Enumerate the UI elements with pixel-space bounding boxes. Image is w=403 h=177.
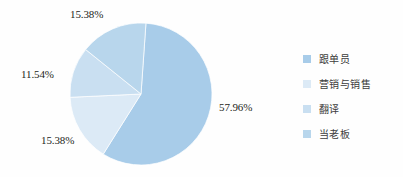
legend-item-label: 当老板 <box>319 126 350 141</box>
data-label-slice-3: 15.38% <box>70 8 103 20</box>
legend-item-label: 跟单员 <box>319 51 350 66</box>
legend-item[interactable]: 营销与销售 <box>303 71 403 96</box>
legend-swatch-icon <box>303 105 311 113</box>
legend-swatch-icon <box>303 55 311 63</box>
legend-item-label: 营销与销售 <box>319 76 371 91</box>
pie-chart: 57.96% 15.38% 11.54% 15.38% 跟单员 营销与销售 翻译… <box>0 0 403 177</box>
data-label-slice-0: 57.96% <box>219 101 252 113</box>
chart-legend: 跟单员 营销与销售 翻译 当老板 <box>303 46 403 146</box>
legend-item[interactable]: 当老板 <box>303 121 403 146</box>
legend-item[interactable]: 翻译 <box>303 96 403 121</box>
data-label-slice-1: 15.38% <box>41 134 74 146</box>
legend-item[interactable]: 跟单员 <box>303 46 403 71</box>
pie-graphic <box>0 0 280 177</box>
legend-item-label: 翻译 <box>319 101 340 116</box>
pie-plot-area: 57.96% 15.38% 11.54% 15.38% <box>0 0 280 177</box>
legend-swatch-icon <box>303 80 311 88</box>
pie-slice-group <box>70 23 212 165</box>
legend-swatch-icon <box>303 130 311 138</box>
data-label-slice-2: 11.54% <box>21 68 54 80</box>
